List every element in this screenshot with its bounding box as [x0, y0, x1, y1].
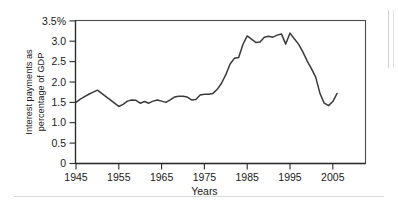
x-axis-title: Years [191, 185, 217, 197]
y-tick-label-3-0: 3.0 [51, 35, 66, 47]
interest-payments-chart: 0 0.5 1.0 1.5 2.0 2.5 3.0 3.5% 1945 1955… [0, 0, 398, 208]
x-tick-label-1975: 1975 [193, 171, 217, 183]
y-axis-title: Interest payments as percentage of GDP [24, 49, 46, 135]
y-tick-label-2-0: 2.0 [51, 76, 66, 88]
plot-frame [76, 21, 366, 164]
interest-payments-series-line [76, 33, 337, 106]
x-axis-ticks [76, 164, 333, 170]
x-tick-label-2005: 2005 [321, 171, 345, 183]
y-axis-title-line2: percentage of GDP [36, 53, 46, 132]
x-tick-label-1965: 1965 [150, 171, 174, 183]
y-axis-title-line1: Interest payments as [24, 49, 34, 135]
x-tick-label-1945: 1945 [64, 171, 88, 183]
x-tick-label-1985: 1985 [236, 171, 260, 183]
x-tick-label-1955: 1955 [107, 171, 131, 183]
y-tick-label-0-5: 0.5 [51, 137, 66, 149]
y-tick-label-1-5: 1.5 [51, 96, 66, 108]
x-axis-tick-labels: 1945 1955 1965 1975 1985 1995 2005 [64, 171, 344, 183]
y-tick-label-1-0: 1.0 [51, 116, 66, 128]
y-tick-label-0: 0 [60, 157, 66, 169]
chart-figure: 0 0.5 1.0 1.5 2.0 2.5 3.0 3.5% 1945 1955… [0, 0, 398, 208]
page-container: 0 0.5 1.0 1.5 2.0 2.5 3.0 3.5% 1945 1955… [0, 0, 398, 208]
y-axis-ticks [70, 21, 76, 164]
y-tick-label-2-5: 2.5 [51, 55, 66, 67]
x-tick-label-1995: 1995 [278, 171, 302, 183]
y-tick-label-3-5: 3.5% [42, 15, 66, 27]
